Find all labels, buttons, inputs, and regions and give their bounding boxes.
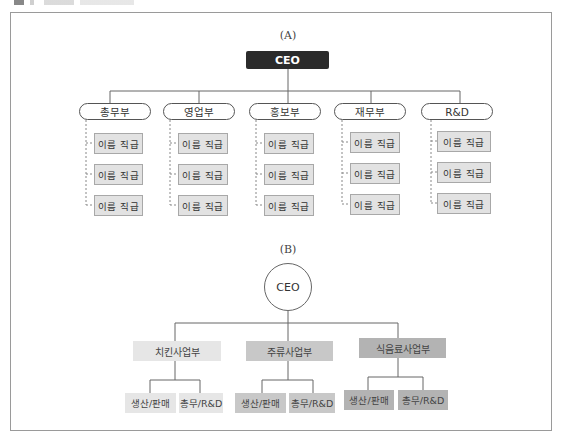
member-box: 이름 직급 bbox=[437, 193, 491, 214]
sub-production-sales: 생산/판매 bbox=[235, 393, 286, 413]
sub-production-sales: 생산/판매 bbox=[344, 390, 394, 410]
member-box: 이름 직급 bbox=[94, 133, 143, 154]
member-box: 이름 직급 bbox=[264, 195, 314, 216]
division-food-beverage: 식음료사업부 bbox=[359, 338, 446, 358]
division-liquor: 주류사업부 bbox=[246, 341, 333, 361]
ceo-box-a: CEO bbox=[246, 51, 329, 69]
dept-general-affairs: 총무부 bbox=[79, 103, 151, 120]
member-box: 이름 직급 bbox=[264, 164, 314, 185]
sub-admin-rnd: 총무/R&D bbox=[289, 393, 335, 413]
member-box: 이름 직급 bbox=[178, 164, 228, 185]
sub-admin-rnd: 총무/R&D bbox=[179, 393, 223, 413]
chart-b-label: (B) bbox=[280, 243, 297, 256]
dept-finance: 재무부 bbox=[334, 103, 406, 120]
member-box: 이름 직급 bbox=[94, 164, 143, 185]
member-box: 이름 직급 bbox=[264, 133, 314, 154]
member-box: 이름 직급 bbox=[350, 194, 400, 215]
member-box: 이름 직급 bbox=[350, 132, 400, 153]
chart-a-label: (A) bbox=[280, 29, 297, 42]
dept-rnd: R&D bbox=[421, 103, 493, 120]
ceo-circle-b: CEO bbox=[264, 263, 312, 311]
member-box: 이름 직급 bbox=[178, 195, 228, 216]
dept-sales: 영업부 bbox=[163, 103, 235, 120]
member-box: 이름 직급 bbox=[178, 133, 228, 154]
member-box: 이름 직급 bbox=[437, 131, 491, 152]
division-chicken: 치킨사업부 bbox=[133, 341, 221, 361]
sub-admin-rnd: 총무/R&D bbox=[398, 390, 448, 410]
dept-pr: 홍보부 bbox=[249, 103, 321, 120]
member-box: 이름 직급 bbox=[437, 162, 491, 183]
sub-production-sales: 생산/판매 bbox=[125, 393, 176, 413]
member-box: 이름 직급 bbox=[94, 195, 143, 216]
member-box: 이름 직급 bbox=[350, 163, 400, 184]
